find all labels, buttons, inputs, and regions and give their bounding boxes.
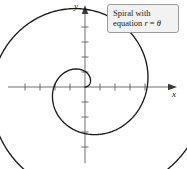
y-axis-label: y (74, 1, 78, 11)
callout-variable-theta: θ (157, 18, 161, 28)
x-axis-label: x (172, 89, 176, 99)
equation-callout: Spiral with equation r = θ (107, 4, 179, 33)
callout-equals-sign: = (148, 18, 157, 28)
callout-line-2: equation r = θ (113, 18, 174, 28)
callout-equation-prefix: equation (113, 18, 144, 28)
callout-line-1: Spiral with (113, 8, 174, 18)
spiral-figure: y x Spiral with equation r = θ (0, 0, 187, 169)
